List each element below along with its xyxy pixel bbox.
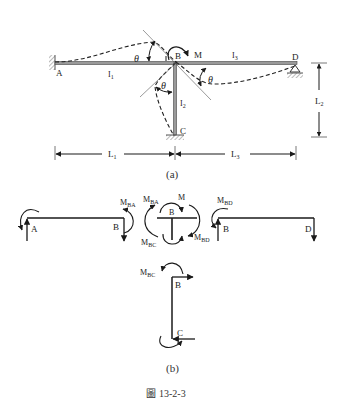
free-body-bc: B C MBC <box>140 263 195 347</box>
member-ab <box>55 62 176 65</box>
svg-text:C: C <box>177 328 183 338</box>
free-body-joint-b: B MBA M MBD MBC <box>141 193 210 248</box>
dimension-l2: L2 <box>311 63 327 137</box>
joint-label-b: B <box>175 51 181 61</box>
part-b-label: (b) <box>166 362 179 375</box>
svg-text:MBA: MBA <box>143 195 159 205</box>
deflected-shape-bd <box>176 62 295 84</box>
deflected-shape-bc <box>155 63 176 136</box>
theta-label-ab: θ <box>134 53 139 64</box>
structural-frame-figure: A B C D M I1 I3 I2 θ θ θ L2 L1 L3 <box>0 0 342 416</box>
svg-text:B: B <box>223 224 229 234</box>
member-bc <box>174 63 177 135</box>
svg-text:B: B <box>175 280 181 290</box>
inertia-label-i2: I2 <box>180 99 186 109</box>
tangent-line-b <box>143 30 211 100</box>
svg-text:MBC: MBC <box>141 238 156 248</box>
fixed-support-a-icon <box>49 55 55 70</box>
svg-text:MBD: MBD <box>194 233 210 243</box>
dimension-label-l1: L1 <box>108 149 117 160</box>
svg-text:D: D <box>305 224 312 234</box>
svg-text:M: M <box>178 193 185 202</box>
theta-label-bd: θ <box>208 74 213 85</box>
dimension-label-l3: L3 <box>231 149 240 160</box>
dimension-l1-l3: L1 L3 <box>55 146 296 160</box>
svg-text:B: B <box>113 222 119 232</box>
free-body-bd: B D MBD <box>212 196 314 241</box>
svg-text:MBD: MBD <box>217 196 233 206</box>
theta-arc-bd <box>200 68 206 86</box>
part-a-label: (a) <box>166 168 179 181</box>
figure-caption: 圖13-2-3 <box>146 388 186 399</box>
svg-text:A: A <box>31 224 38 234</box>
joint-label-a: A <box>56 68 63 78</box>
member-bd <box>176 62 297 65</box>
moment-arrow-mbd-joint <box>188 205 200 236</box>
inertia-label-i1: I1 <box>108 70 114 80</box>
svg-text:MBC: MBC <box>140 268 155 278</box>
pin-support-d-icon <box>287 65 303 78</box>
moment-arrow-mba-joint <box>145 205 158 237</box>
theta-label-bc: θ <box>161 80 166 91</box>
free-body-ab: A B MBA <box>21 198 137 241</box>
dimension-label-l2: L2 <box>315 96 324 107</box>
part-b-free-bodies: A B MBA B MBA M MBD MBC B D MBD <box>21 193 314 375</box>
joint-label-c: C <box>180 126 186 136</box>
moment-arrow-mbc <box>162 263 183 274</box>
joint-label-d: D <box>292 52 299 62</box>
svg-text:B: B <box>169 208 174 217</box>
svg-text:MBA: MBA <box>120 198 136 208</box>
part-a-frame: A B C D M I1 I3 I2 θ θ θ L2 L1 L3 <box>49 30 327 181</box>
moment-label-m: M <box>194 50 202 60</box>
inertia-label-i3: I3 <box>232 51 238 61</box>
theta-arc-ab <box>149 41 155 61</box>
